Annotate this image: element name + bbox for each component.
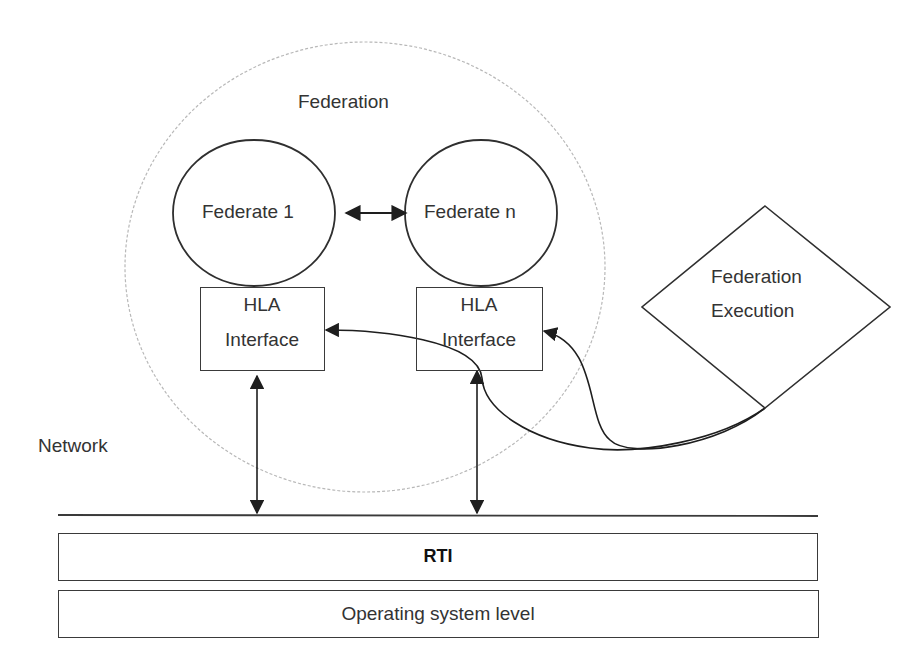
federate-1-label: Federate 1 (202, 201, 294, 223)
hla-interface-1-line1: HLA (244, 294, 281, 316)
federate-n-label: Federate n (424, 201, 516, 223)
hla-interface-n-line2: Interface (442, 329, 516, 351)
federation-execution-line1: Federation (711, 266, 802, 288)
execution-to-interface-1-arrow (326, 330, 765, 450)
rti-layer-label: RTI (424, 546, 453, 567)
network-label: Network (38, 435, 108, 457)
federation-label: Federation (298, 91, 389, 113)
os-layer-label: Operating system level (341, 603, 534, 625)
federation-execution-line2: Execution (711, 300, 794, 322)
execution-to-interface-n-arrow (544, 331, 765, 449)
hla-interface-1-line2: Interface (225, 329, 299, 351)
hla-interface-n-line1: HLA (461, 294, 498, 316)
network-line (58, 515, 818, 516)
